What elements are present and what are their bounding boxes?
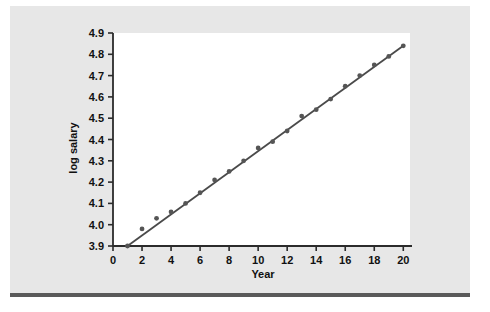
- x-tick-label: 10: [252, 254, 264, 266]
- data-point: [183, 201, 188, 206]
- y-axis: 3.94.04.14.24.34.44.54.64.74.84.9: [89, 27, 113, 252]
- data-point: [198, 190, 203, 195]
- data-point: [285, 129, 290, 134]
- x-axis-title: Year: [251, 268, 275, 280]
- scatter-chart: 3.94.04.14.24.34.44.54.64.74.84.9 024681…: [0, 0, 490, 312]
- data-point: [299, 114, 304, 119]
- x-axis-tick-labels: 02468101214161820: [110, 254, 409, 266]
- data-point: [314, 107, 319, 112]
- data-point: [386, 54, 391, 59]
- y-tick-label: 4.5: [89, 112, 104, 124]
- y-axis-tick-labels: 3.94.04.14.24.34.44.54.64.74.84.9: [89, 27, 105, 252]
- y-tick-label: 4.6: [89, 91, 104, 103]
- data-point: [241, 158, 246, 163]
- data-point: [372, 63, 377, 68]
- data-point: [154, 216, 159, 221]
- y-tick-label: 4.8: [89, 48, 104, 60]
- y-tick-label: 4.0: [89, 219, 104, 231]
- data-point: [328, 97, 333, 102]
- y-tick-label: 3.9: [89, 240, 104, 252]
- x-tick-label: 12: [281, 254, 293, 266]
- x-tick-label: 4: [168, 254, 175, 266]
- x-tick-label: 14: [310, 254, 323, 266]
- data-point: [212, 178, 217, 183]
- figure-container: 3.94.04.14.24.34.44.54.64.74.84.9 024681…: [0, 0, 490, 312]
- x-tick-label: 20: [397, 254, 409, 266]
- x-tick-label: 0: [110, 254, 116, 266]
- data-series-group: [125, 43, 406, 248]
- data-point: [401, 43, 406, 48]
- y-tick-label: 4.3: [89, 155, 104, 167]
- data-point: [256, 146, 261, 151]
- data-point: [125, 244, 130, 249]
- x-tick-label: 2: [139, 254, 145, 266]
- data-point: [140, 227, 145, 232]
- x-tick-label: 6: [197, 254, 203, 266]
- x-tick-label: 8: [226, 254, 232, 266]
- y-tick-label: 4.9: [89, 27, 104, 39]
- x-axis: 02468101214161820: [110, 246, 412, 266]
- y-tick-label: 4.1: [89, 197, 104, 209]
- x-tick-label: 16: [339, 254, 351, 266]
- data-point: [270, 139, 275, 144]
- x-tick-label: 18: [368, 254, 380, 266]
- data-point: [169, 210, 174, 215]
- data-point: [227, 169, 232, 174]
- y-tick-label: 4.2: [89, 176, 104, 188]
- y-tick-label: 4.7: [89, 70, 104, 82]
- data-point: [343, 84, 348, 89]
- data-point: [357, 73, 362, 78]
- y-tick-label: 4.4: [89, 134, 105, 146]
- y-axis-title: log salary: [67, 121, 79, 173]
